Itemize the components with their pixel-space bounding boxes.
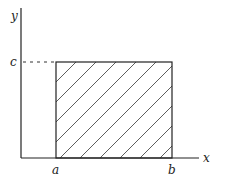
tick-label-c: c — [10, 55, 17, 69]
x-axis-label: x — [203, 151, 210, 165]
rectangle-area-diagram: y x c a b — [0, 0, 225, 178]
tick-label-a: a — [52, 163, 59, 177]
y-axis-label: y — [10, 9, 18, 23]
tick-label-b: b — [168, 163, 176, 177]
hatch-lines — [0, 58, 225, 178]
